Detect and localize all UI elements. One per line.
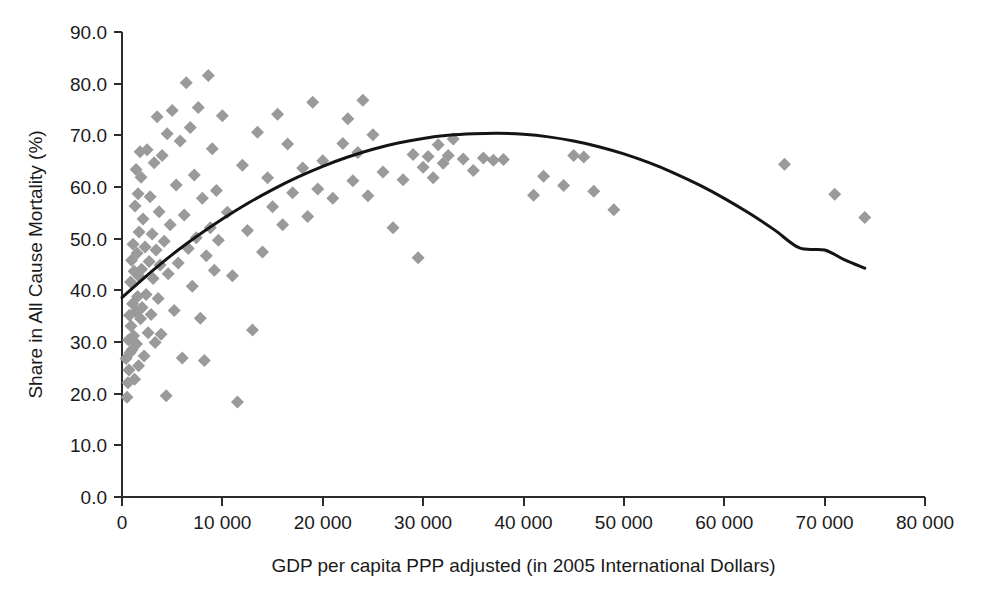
scatter-point xyxy=(206,142,219,155)
scatter-point xyxy=(152,292,165,305)
scatter-point xyxy=(166,104,179,117)
plot-canvas: 0.010.020.030.040.050.060.070.080.090.0 … xyxy=(0,0,994,601)
x-axis-tick-marks xyxy=(122,497,925,506)
scatter-point xyxy=(557,179,570,192)
y-tick-label: 70.0 xyxy=(70,125,107,146)
scatter-point xyxy=(427,171,440,184)
data-point-markers xyxy=(120,69,872,409)
scatter-point xyxy=(361,189,374,202)
scatter-point xyxy=(192,101,205,114)
scatter-point xyxy=(186,280,199,293)
x-tick-label: 0 xyxy=(117,512,128,533)
scatter-point xyxy=(266,200,279,213)
scatter-point xyxy=(196,192,209,205)
scatter-point xyxy=(271,108,284,121)
scatter-point xyxy=(341,112,354,125)
scatter-point xyxy=(212,234,225,247)
scatter-point xyxy=(246,324,259,337)
scatter-point xyxy=(161,127,174,140)
scatter-point xyxy=(198,354,211,367)
scatter-point xyxy=(412,251,425,264)
scatter-point xyxy=(133,225,146,238)
scatter-point xyxy=(178,208,191,221)
scatter-point xyxy=(241,224,254,237)
scatter-point xyxy=(422,150,435,163)
scatter-point xyxy=(202,69,215,82)
y-tick-label: 40.0 xyxy=(70,280,107,301)
scatter-point xyxy=(346,174,359,187)
y-tick-label: 50.0 xyxy=(70,229,107,250)
scatter-point xyxy=(497,153,510,166)
scatter-point xyxy=(231,395,244,408)
scatter-point xyxy=(477,152,490,165)
scatter-point xyxy=(216,109,229,122)
scatter-point xyxy=(142,326,155,339)
y-axis-tick-marks xyxy=(114,32,122,497)
x-tick-label: 20 000 xyxy=(294,512,352,533)
scatter-point xyxy=(153,205,166,218)
scatter-point xyxy=(261,171,274,184)
x-tick-label: 10 000 xyxy=(193,512,251,533)
y-tick-label: 80.0 xyxy=(70,74,107,95)
scatter-point xyxy=(132,187,145,200)
y-tick-label: 60.0 xyxy=(70,177,107,198)
scatter-point xyxy=(125,319,138,332)
y-tick-label: 10.0 xyxy=(70,435,107,456)
scatter-point xyxy=(129,200,142,213)
y-tick-label: 30.0 xyxy=(70,332,107,353)
scatter-point xyxy=(397,173,410,186)
scatter-point xyxy=(184,121,197,134)
scatter-point xyxy=(188,169,201,182)
scatter-point xyxy=(158,235,171,248)
x-axis-tick-labels: 010 00020 00030 00040 00050 00060 00070 … xyxy=(117,512,954,533)
scatter-point xyxy=(162,267,175,280)
scatter-point xyxy=(194,312,207,325)
x-tick-label: 50 000 xyxy=(595,512,653,533)
scatter-point xyxy=(387,221,400,234)
scatter-point xyxy=(587,185,600,198)
scatter-point xyxy=(150,244,163,257)
scatter-point xyxy=(306,96,319,109)
y-tick-label: 0.0 xyxy=(81,487,107,508)
scatter-point xyxy=(311,183,324,196)
scatter-point xyxy=(137,213,150,226)
scatter-point xyxy=(256,246,269,259)
scatter-point xyxy=(577,151,590,164)
scatter-point xyxy=(407,148,420,161)
scatter-point xyxy=(251,126,264,139)
axis-lines xyxy=(122,32,925,497)
scatter-point xyxy=(276,218,289,231)
scatter-point xyxy=(366,128,379,141)
scatter-point xyxy=(236,159,249,172)
scatter-point xyxy=(607,203,620,216)
scatter-point xyxy=(281,138,294,151)
y-tick-label: 20.0 xyxy=(70,384,107,405)
scatter-point xyxy=(301,210,314,223)
scatter-point xyxy=(858,211,871,224)
scatter-point xyxy=(417,161,430,174)
scatter-point xyxy=(208,264,221,277)
scatter-point xyxy=(376,166,389,179)
scatter-point xyxy=(168,304,181,317)
y-tick-label: 90.0 xyxy=(70,22,107,43)
scatter-point xyxy=(326,192,339,205)
scatter-point xyxy=(172,256,185,269)
x-tick-label: 60 000 xyxy=(695,512,753,533)
scatter-point xyxy=(144,190,157,203)
scatter-point xyxy=(176,352,189,365)
x-tick-label: 80 000 xyxy=(896,512,954,533)
scatter-point xyxy=(527,189,540,202)
scatter-point xyxy=(457,153,470,166)
x-tick-label: 30 000 xyxy=(394,512,452,533)
scatter-point xyxy=(151,110,164,123)
x-tick-label: 70 000 xyxy=(796,512,854,533)
scatter-point xyxy=(567,149,580,162)
y-axis-title: Share in All Cause Mortality (%) xyxy=(25,130,46,398)
scatter-point xyxy=(286,186,299,199)
scatter-point xyxy=(226,269,239,282)
scatter-point xyxy=(200,249,213,262)
x-tick-label: 40 000 xyxy=(494,512,552,533)
scatter-chart: 0.010.020.030.040.050.060.070.080.090.0 … xyxy=(0,0,994,601)
scatter-point xyxy=(164,218,177,231)
scatter-point xyxy=(432,138,445,151)
